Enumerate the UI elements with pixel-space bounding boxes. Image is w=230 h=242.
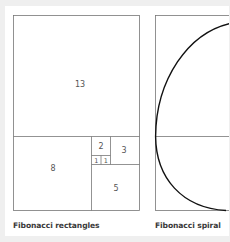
square-label-5: 5 (113, 184, 118, 193)
square-label-3: 3 (121, 146, 126, 155)
caption-fibonacci-rectangles: Fibonacci rectangles (13, 221, 100, 230)
fibonacci-spiral-diagram (156, 16, 230, 211)
caption-fibonacci-spiral: Fibonacci spiral (155, 221, 221, 230)
square-label-8: 8 (50, 164, 55, 173)
spiral-curve (156, 23, 229, 211)
fibonacci-figure: 13 8 5 3 2 1 1 (0, 0, 229, 242)
square-label-1b: 1 (104, 157, 108, 165)
outer-rectangle (14, 16, 140, 211)
square-label-13: 13 (75, 80, 85, 89)
square-label-1a: 1 (94, 157, 98, 165)
square-label-2: 2 (98, 142, 103, 151)
fibonacci-rectangles-diagram (14, 16, 140, 211)
